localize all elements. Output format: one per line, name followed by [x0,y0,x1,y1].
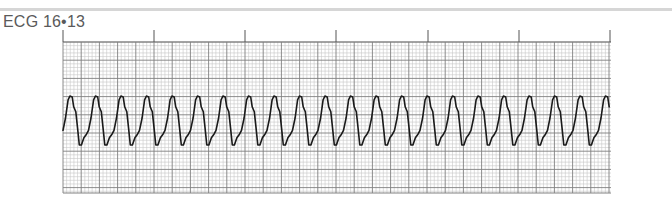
ecg-strip [0,0,672,205]
time-markers [63,30,610,42]
ecg-grid-minor [63,42,611,193]
